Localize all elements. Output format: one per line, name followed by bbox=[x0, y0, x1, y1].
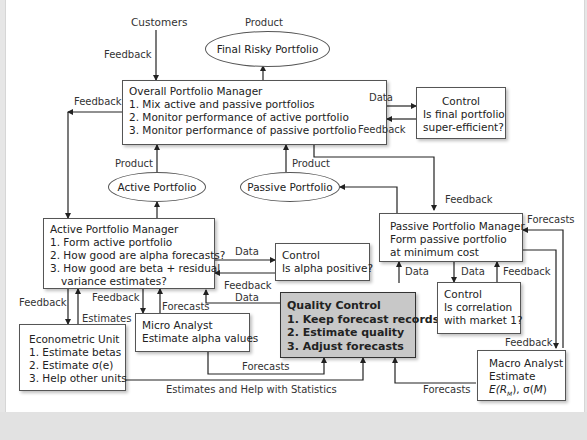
quality-control-item: 2. Estimate quality bbox=[287, 326, 409, 340]
active-portfolio-label: Active Portfolio bbox=[117, 181, 196, 193]
edge-label: Feedback bbox=[74, 96, 122, 107]
edge-label: Feedback bbox=[224, 280, 272, 291]
final-risky-portfolio-node: Final Risky Portfolio bbox=[205, 31, 330, 67]
quality-control-item: 1. Keep forecast records bbox=[287, 313, 409, 327]
passive-manager-title: Passive Portfolio Manager bbox=[390, 220, 516, 233]
active-manager-item: 3. How good are beta + residual bbox=[50, 262, 208, 275]
control-alpha-node: Control Is alpha positive? bbox=[275, 243, 370, 281]
active-manager-item: 2. How good are alpha forecasts? bbox=[50, 249, 208, 262]
passive-manager-line: at minimum cost bbox=[390, 246, 516, 259]
overall-manager-item: 1. Mix active and passive portfolios bbox=[129, 98, 380, 111]
overall-manager-item: 2. Monitor performance of active portfol… bbox=[129, 111, 380, 124]
quality-control-title: Quality Control bbox=[287, 299, 409, 313]
edge-label: Estimates bbox=[82, 313, 131, 324]
control-corr-line: with market 1? bbox=[444, 314, 514, 327]
edge-label: Feedback bbox=[358, 124, 406, 135]
overall-portfolio-manager-node: Overall Portfolio Manager 1. Mix active … bbox=[122, 80, 387, 145]
final-risky-portfolio-label: Final Risky Portfolio bbox=[217, 43, 319, 55]
edge-label: Data bbox=[369, 92, 393, 103]
control-corr-title: Control bbox=[444, 288, 514, 301]
edge-label: Forecasts bbox=[423, 384, 471, 395]
active-portfolio-node: Active Portfolio bbox=[108, 172, 206, 202]
econometric-title: Econometric Unit bbox=[29, 333, 119, 346]
passive-portfolio-manager-node: Passive Portfolio Manager Form passive p… bbox=[379, 213, 523, 262]
edge-label: Data bbox=[235, 246, 259, 257]
active-manager-title: Active Portfolio Manager bbox=[50, 223, 208, 236]
control-alpha-line: Is alpha positive? bbox=[282, 262, 363, 275]
edge-label: Estimates and Help with Statistics bbox=[166, 384, 337, 395]
edge-label: Feedback bbox=[445, 194, 493, 205]
edge-label: Data bbox=[405, 266, 429, 277]
edge-label: Forecasts bbox=[242, 361, 290, 372]
control-final-line: super-efficient? bbox=[423, 121, 499, 134]
macro-analyst-line: Estimate bbox=[489, 370, 559, 383]
edge-label: Data bbox=[461, 266, 485, 277]
active-manager-item: 1. Form active portfolio bbox=[50, 236, 208, 249]
overall-manager-title: Overall Portfolio Manager bbox=[129, 85, 380, 98]
edge-label: Feedback bbox=[92, 292, 140, 303]
passive-portfolio-label: Passive Portfolio bbox=[247, 181, 332, 193]
overall-manager-item: 3. Monitor performance of passive portfo… bbox=[129, 124, 380, 137]
passive-manager-line: Form passive portfolio bbox=[390, 233, 516, 246]
edge-label: Product bbox=[292, 158, 330, 169]
control-final-title: Control bbox=[423, 95, 499, 108]
edge-label: Feedback bbox=[104, 49, 152, 60]
edge-label: Forecasts bbox=[527, 214, 575, 225]
edge-label: Feedback bbox=[503, 266, 551, 277]
edge-label: Feedback bbox=[19, 297, 67, 308]
edge-label: Product bbox=[115, 158, 153, 169]
active-portfolio-manager-node: Active Portfolio Manager 1. Form active … bbox=[43, 218, 215, 289]
micro-analyst-node: Micro Analyst Estimate alpha values bbox=[135, 313, 250, 352]
control-corr-line: Is correlation bbox=[444, 301, 514, 314]
edge-label: Data bbox=[235, 292, 259, 303]
quality-control-item: 3. Adjust forecasts bbox=[287, 340, 409, 354]
edge-label: Product bbox=[245, 17, 283, 28]
micro-analyst-line: Estimate alpha values bbox=[142, 332, 243, 345]
econometric-item: 2. Estimate σ(e) bbox=[29, 359, 119, 372]
quality-control-node: Quality Control 1. Keep forecast records… bbox=[280, 292, 416, 358]
econometric-item: 3. Help other units bbox=[29, 372, 119, 385]
control-final-line: Is final portfolio bbox=[423, 108, 499, 121]
edge-label: Feedback bbox=[505, 337, 553, 348]
active-manager-item: variance estimates? bbox=[50, 275, 208, 288]
edge-label: Forecasts bbox=[162, 301, 210, 312]
customers-label: Customers bbox=[131, 16, 187, 28]
micro-analyst-title: Micro Analyst bbox=[142, 319, 243, 332]
macro-analyst-node: Macro Analyst Estimate E(RM), σ(M) bbox=[477, 350, 566, 401]
control-correlation-node: Control Is correlation with market 1? bbox=[437, 282, 521, 334]
econometric-unit-node: Econometric Unit 1. Estimate betas 2. Es… bbox=[19, 324, 126, 391]
control-alpha-title: Control bbox=[282, 249, 363, 262]
econometric-item: 1. Estimate betas bbox=[29, 346, 119, 359]
control-final-node: Control Is final portfolio super-efficie… bbox=[416, 87, 506, 139]
macro-analyst-formula: E(RM), σ(M) bbox=[489, 383, 559, 400]
macro-analyst-title: Macro Analyst bbox=[489, 357, 559, 370]
passive-portfolio-node: Passive Portfolio bbox=[240, 172, 340, 202]
